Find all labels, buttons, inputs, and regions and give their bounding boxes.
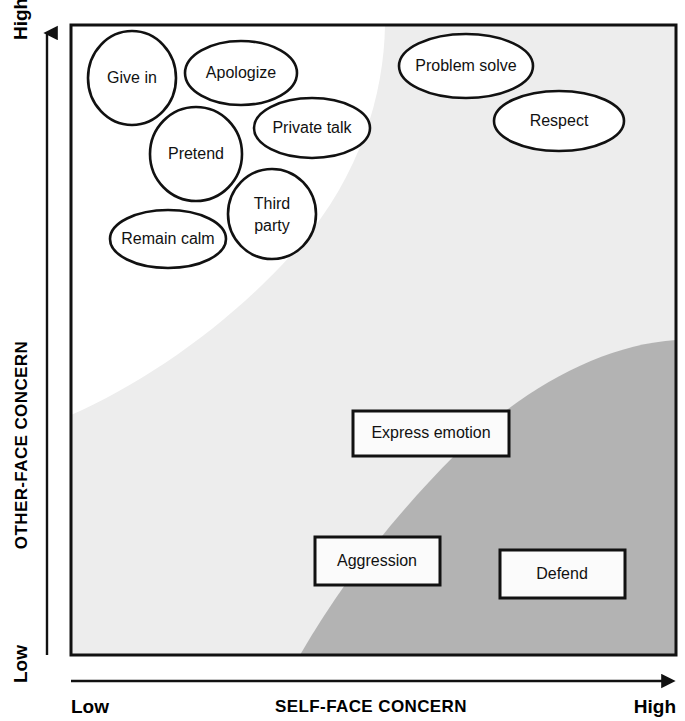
node-label-line-1: Third: [254, 195, 290, 212]
y-axis-low-label: Low: [10, 645, 31, 683]
node-label: Apologize: [206, 64, 276, 81]
node-label: Pretend: [168, 145, 224, 162]
node-express-emotion[interactable]: Express emotion: [353, 411, 509, 456]
y-axis-title: OTHER-FACE CONCERN: [12, 341, 31, 549]
node-remain-calm[interactable]: Remain calm: [110, 210, 226, 268]
y-axis-high-label: High: [10, 0, 31, 40]
node-give-in[interactable]: Give in: [88, 31, 176, 125]
y-axis: High OTHER-FACE CONCERN Low: [10, 0, 47, 683]
node-aggression[interactable]: Aggression: [315, 537, 440, 585]
node-label: Express emotion: [371, 424, 490, 441]
node-private-talk[interactable]: Private talk: [254, 98, 370, 158]
face-concern-diagram: Give in Apologize Private talk Pretend T…: [0, 0, 685, 721]
x-axis-high-label: High: [634, 696, 676, 717]
node-third-party[interactable]: Third party: [228, 169, 316, 259]
node-label: Give in: [107, 69, 157, 86]
node-label: Private talk: [272, 119, 352, 136]
node-respect[interactable]: Respect: [494, 91, 624, 151]
node-label: Aggression: [337, 552, 417, 569]
node-label: Respect: [530, 112, 589, 129]
x-axis: Low SELF-FACE CONCERN High: [71, 681, 676, 717]
node-label: Defend: [536, 565, 588, 582]
x-axis-title: SELF-FACE CONCERN: [275, 697, 467, 716]
node-shape: [228, 169, 316, 259]
node-label: Problem solve: [415, 57, 516, 74]
x-axis-low-label: Low: [71, 696, 109, 717]
diagram-canvas: Give in Apologize Private talk Pretend T…: [0, 0, 685, 721]
node-defend[interactable]: Defend: [500, 550, 625, 598]
node-pretend[interactable]: Pretend: [150, 107, 242, 201]
node-problem-solve[interactable]: Problem solve: [399, 34, 533, 98]
node-apologize[interactable]: Apologize: [185, 41, 297, 105]
node-label-line-2: party: [254, 217, 290, 234]
node-label: Remain calm: [121, 230, 214, 247]
